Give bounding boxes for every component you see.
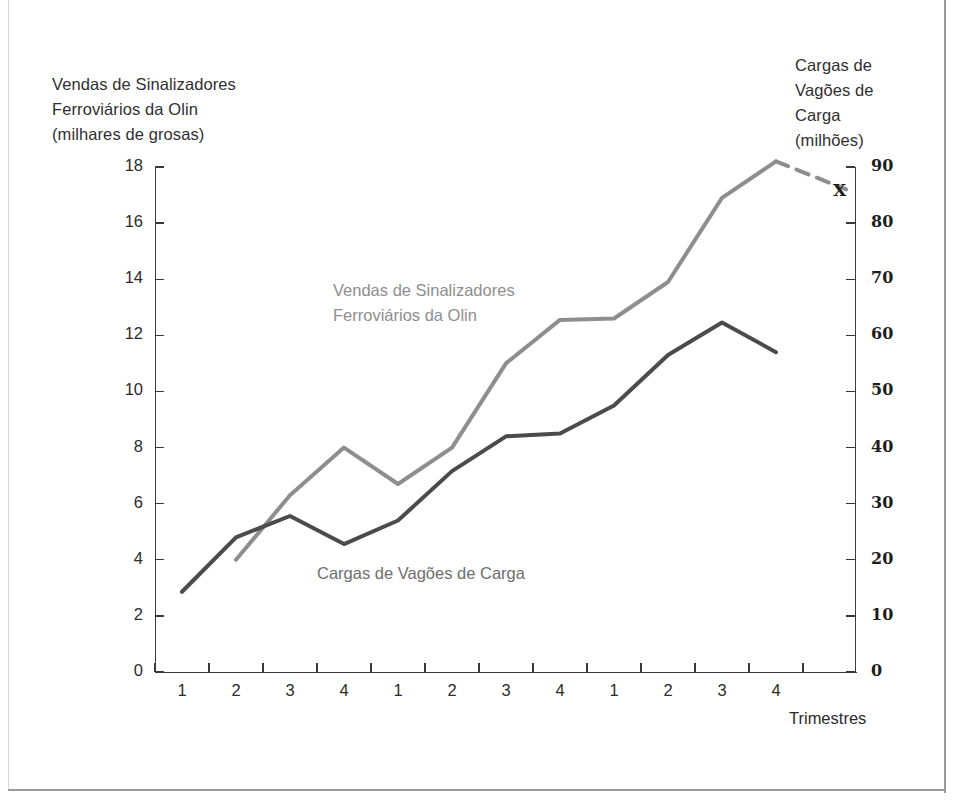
series-line-2 [182, 322, 776, 591]
x-axis-label: Trimestres [789, 709, 866, 728]
chart-page: Vendas de Sinalizadores Ferroviários da … [0, 0, 962, 801]
series-label-cargas-vagoes: Cargas de Vagões de Carga [317, 561, 525, 586]
series-label-vendas-sinalizadores: Vendas de Sinalizadores Ferroviários da … [333, 278, 515, 328]
series-line-1 [236, 161, 776, 559]
plot-lines [0, 0, 962, 801]
forecast-x-marker: X [833, 180, 846, 200]
